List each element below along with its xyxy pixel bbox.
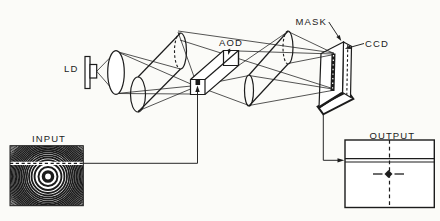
cyl1-front-face [131, 77, 146, 112]
ccd-output-line [323, 114, 344, 162]
ld-module [85, 57, 97, 89]
cyl2-front-face [245, 75, 254, 106]
aod-transducer-spot [196, 80, 201, 85]
diagram-canvas: LD AOD MASK CCD INPUT OUTPUT [0, 0, 440, 221]
mask-label: MASK [296, 16, 327, 27]
ld-plate [85, 57, 90, 89]
output-arrow [338, 158, 345, 162]
mask-slit [333, 54, 334, 92]
ccd-label: CCD [365, 38, 389, 49]
cyl2-end-cap [288, 31, 293, 64]
output-label: OUTPUT [370, 130, 416, 141]
mask-pointer-arrow [336, 35, 341, 41]
ld-label: LD [64, 63, 78, 74]
aod-label: AOD [219, 37, 243, 48]
collimating-lens [108, 51, 125, 95]
input-label: INPUT [32, 133, 66, 144]
input-signal-line [83, 86, 199, 164]
cyl1-end-cap [181, 33, 187, 69]
ld-emitter [90, 65, 97, 79]
output-panel [345, 140, 434, 208]
optical-correlator-figure: LD AOD MASK CCD INPUT OUTPUT [0, 0, 440, 221]
detector-assembly [318, 42, 354, 114]
cylindrical-lens-1 [131, 33, 187, 112]
